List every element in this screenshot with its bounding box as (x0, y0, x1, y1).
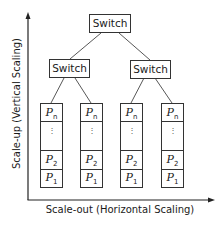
cell-p2: P2 (81, 151, 102, 170)
cell-p2: P2 (121, 151, 142, 170)
processor-column-3: Pn ⋮ P2 P1 (120, 103, 143, 188)
processor-column-2: Pn ⋮ P2 P1 (80, 103, 103, 188)
x-axis-label: Scale-out (Horizontal Scaling) (40, 204, 200, 215)
cell-dots: ⋮ (81, 122, 102, 151)
root-switch: Switch (89, 14, 131, 33)
cell-pn: Pn (121, 104, 142, 122)
processor-column-4: Pn ⋮ P2 P1 (161, 103, 184, 188)
cell-pn: Pn (81, 104, 102, 122)
cell-dots: ⋮ (121, 122, 142, 151)
cell-p2: P2 (41, 151, 62, 170)
cell-p1: P1 (121, 170, 142, 187)
connector-lines (0, 0, 223, 228)
cell-dots: ⋮ (41, 122, 62, 151)
cell-p2: P2 (162, 151, 183, 170)
y-axis-label: Scale-up (Vertical Scaling) (11, 21, 22, 186)
cell-pn: Pn (41, 104, 62, 122)
right-switch: Switch (130, 60, 171, 79)
cell-p1: P1 (162, 170, 183, 187)
cell-p1: P1 (81, 170, 102, 187)
left-switch: Switch (49, 59, 90, 78)
cell-dots: ⋮ (162, 122, 183, 151)
processor-column-1: Pn ⋮ P2 P1 (40, 103, 63, 188)
cell-p1: P1 (41, 170, 62, 187)
cell-pn: Pn (162, 104, 183, 122)
